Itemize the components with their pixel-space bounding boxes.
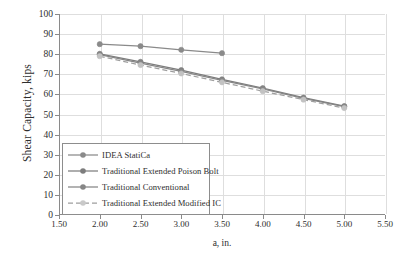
legend-marker-icon <box>66 148 100 162</box>
gridline-vertical <box>345 14 346 214</box>
chart-legend: IDEA StatiCaTraditional Extended Poison … <box>62 143 210 215</box>
y-axis-tick-label: 40 <box>7 130 53 140</box>
y-axis-tick-label: 90 <box>7 29 53 39</box>
y-axis-tick-labels: 0102030405060708090100 <box>0 14 53 215</box>
x-axis-tick-mark <box>141 215 142 219</box>
y-axis-tick-label: 80 <box>7 49 53 59</box>
x-axis-title: a, in. <box>59 238 385 248</box>
y-axis-tick-label: 10 <box>7 190 53 200</box>
legend-item[interactable]: Traditional Conventional <box>66 179 205 195</box>
gridline-vertical <box>223 14 224 214</box>
legend-marker-icon <box>66 180 100 194</box>
y-axis-tick-mark <box>55 135 59 136</box>
y-axis-tick-mark <box>55 115 59 116</box>
x-axis-tick-mark <box>263 215 264 219</box>
gridline-vertical <box>386 14 387 214</box>
y-axis-tick-label: 20 <box>7 170 53 180</box>
y-axis-tick-mark <box>55 54 59 55</box>
legend-marker-icon <box>66 164 100 178</box>
x-axis-tick-mark <box>385 215 386 219</box>
y-axis-tick-mark <box>55 94 59 95</box>
legend-item[interactable]: Traditional Extended Modified IC <box>66 195 205 211</box>
chart-figure: Shear Capacity, kips 0102030405060708090… <box>0 0 407 256</box>
x-axis-tick-mark <box>344 215 345 219</box>
y-axis-tick-mark <box>55 155 59 156</box>
legend-marker-icon <box>66 196 100 210</box>
y-axis-tick-mark <box>55 195 59 196</box>
y-axis-tick-mark <box>55 14 59 15</box>
x-axis-tick-mark <box>304 215 305 219</box>
y-axis-tick-label: 100 <box>7 9 53 19</box>
x-axis-tick-mark <box>100 215 101 219</box>
gridline-vertical <box>305 14 306 214</box>
legend-item-label: IDEA StatiCa <box>100 150 150 160</box>
legend-item-label: Traditional Conventional <box>100 182 190 192</box>
y-axis-tick-label: 30 <box>7 150 53 160</box>
y-axis-tick-label: 50 <box>7 110 53 120</box>
x-axis-tick-mark <box>222 215 223 219</box>
x-axis-tick-mark <box>181 215 182 219</box>
legend-item-label: Traditional Extended Poison Bolt <box>100 166 219 176</box>
x-axis-tick-mark <box>59 215 60 219</box>
y-axis-tick-label: 70 <box>7 69 53 79</box>
gridline-vertical <box>264 14 265 214</box>
y-axis-tick-label: 60 <box>7 89 53 99</box>
legend-item[interactable]: IDEA StatiCa <box>66 147 205 163</box>
y-axis-tick-mark <box>55 34 59 35</box>
y-axis-tick-mark <box>55 175 59 176</box>
legend-item[interactable]: Traditional Extended Poison Bolt <box>66 163 205 179</box>
y-axis-tick-mark <box>55 74 59 75</box>
x-axis-tick-label: 5.50 <box>360 219 407 229</box>
legend-item-label: Traditional Extended Modified IC <box>100 198 221 208</box>
